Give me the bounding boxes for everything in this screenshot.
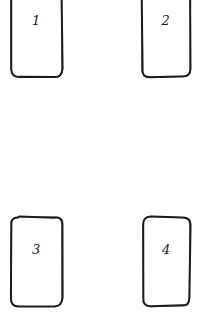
card-3[interactable]: 3 xyxy=(11,217,62,306)
card-4[interactable]: 4 xyxy=(143,217,190,306)
sketch-canvas: 1234 xyxy=(0,0,206,329)
card-3-label: 3 xyxy=(11,243,62,256)
card-3-outline xyxy=(11,217,68,312)
card-4-label: 4 xyxy=(143,243,190,256)
card-4-outline xyxy=(143,217,196,312)
card-1[interactable]: 1 xyxy=(11,0,62,77)
card-1-label: 1 xyxy=(11,14,62,27)
card-2[interactable]: 2 xyxy=(142,0,190,77)
card-2-label: 2 xyxy=(142,14,190,27)
